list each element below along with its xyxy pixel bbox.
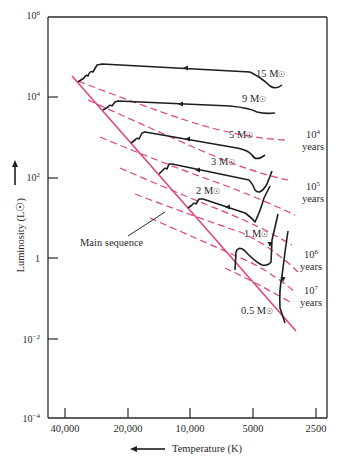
y-tick-1e4: 104	[6, 91, 40, 102]
isochrone-label-1e5: 105years	[293, 181, 333, 204]
mass-label-5: 5 M☉	[229, 130, 253, 141]
mass-label-1: 1 M☉	[244, 229, 268, 240]
y-axis-label: Luminosity (L☉)	[16, 180, 27, 290]
x-tick-40000: 40,000	[35, 424, 95, 435]
isochrone-label-1e4: 104years	[293, 129, 333, 152]
y-tick-1e6: 106	[6, 10, 40, 21]
axis-arrows	[12, 160, 165, 452]
y-tick-1e-2: 10−2	[6, 334, 40, 345]
isochrone-extra	[150, 218, 295, 292]
isochrone-label-1e6: 106years	[291, 249, 331, 272]
isochrones	[78, 81, 298, 302]
mass-label-0.5: 0.5 M☉	[241, 306, 273, 317]
mass-label-15: 15 M☉	[256, 69, 285, 80]
isochrone-label-1e7: 107years	[291, 285, 331, 308]
x-tick-5000: 5000	[223, 424, 283, 435]
arrow-icon	[185, 137, 190, 142]
x-axis-label: Temperature (K)	[172, 444, 242, 455]
mass-label-9: 9 M☉	[242, 94, 266, 105]
arrow-icon	[178, 102, 183, 107]
x-tick-10000: 10,000	[160, 424, 220, 435]
y-ticks	[48, 97, 58, 339]
arrow-icon	[183, 66, 188, 71]
arrow-icon	[225, 205, 230, 210]
y-tick-1e-4: 10−4	[6, 413, 40, 424]
track-15msun	[78, 64, 282, 88]
hr-diagram-plot	[0, 0, 346, 461]
isochrone-1e5	[100, 137, 295, 215]
mass-label-2: 2 M☉	[196, 186, 220, 197]
main-sequence-pointer	[128, 212, 165, 236]
x-tick-20000: 20,000	[98, 424, 158, 435]
mass-label-3: 3 M☉	[211, 157, 235, 168]
x-tick-2500: 2500	[286, 424, 346, 435]
main-sequence-label: Main sequence	[80, 238, 143, 249]
x-ticks	[65, 408, 316, 418]
